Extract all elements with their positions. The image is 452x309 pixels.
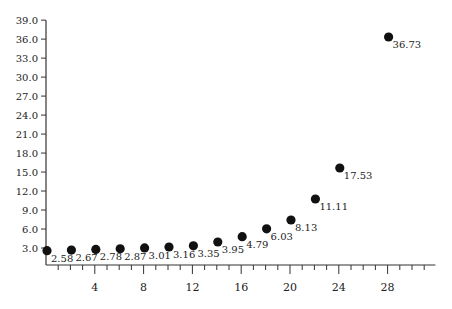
- data-point: 11.11: [311, 194, 348, 212]
- y-tick-label: 15.0: [16, 167, 38, 178]
- point-value-label: 3.01: [149, 250, 171, 261]
- point-value-label: 17.53: [344, 170, 373, 181]
- x-tick-label: 8: [140, 281, 147, 294]
- y-tick-label: 6.0: [22, 224, 38, 235]
- y-tick-label: 12.0: [16, 186, 38, 197]
- point-value-label: 4.79: [246, 239, 268, 250]
- x-tick-label: 16: [234, 281, 248, 294]
- x-tick-label: 12: [185, 281, 199, 294]
- x-tick-label: 28: [381, 281, 395, 294]
- y-tick-label: 21.0: [16, 129, 38, 140]
- x-axis: 481216202428: [46, 265, 435, 294]
- y-tick-label: 36.0: [16, 34, 38, 45]
- data-points: 2.582.672.782.873.013.163.353.954.796.03…: [42, 32, 421, 263]
- x-tick-label: 20: [283, 281, 297, 294]
- point-value-label: 3.35: [197, 248, 219, 259]
- y-tick-label: 27.0: [16, 91, 38, 102]
- point-value-label: 2.87: [124, 251, 146, 262]
- y-tick-label: 3.0: [22, 243, 38, 254]
- y-tick-label: 24.0: [16, 110, 38, 121]
- data-point: 36.73: [384, 32, 421, 50]
- y-tick-label: 30.0: [16, 72, 38, 83]
- x-tick-label: 4: [91, 281, 98, 294]
- point-value-label: 36.73: [393, 39, 422, 50]
- data-point: 17.53: [335, 163, 372, 181]
- point-value-label: 3.95: [222, 244, 244, 255]
- y-tick-label: 39.0: [16, 15, 38, 26]
- point-value-label: 11.11: [319, 201, 348, 212]
- y-tick-label: 9.0: [22, 205, 38, 216]
- point-value-label: 3.16: [173, 249, 195, 260]
- point-value-label: 6.03: [271, 231, 293, 242]
- y-tick-label: 18.0: [16, 148, 38, 159]
- scatter-chart: 3.06.09.012.015.018.021.024.027.030.033.…: [0, 0, 452, 309]
- y-tick-label: 33.0: [16, 53, 38, 64]
- point-value-label: 8.13: [295, 222, 317, 233]
- y-axis: 3.06.09.012.015.018.021.024.027.030.033.…: [16, 15, 46, 265]
- x-tick-label: 24: [332, 281, 346, 294]
